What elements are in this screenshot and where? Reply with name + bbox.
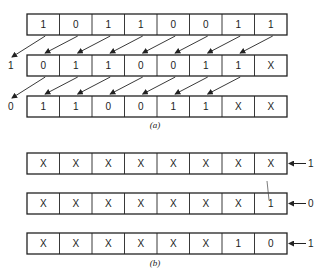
bit-cell: 1: [73, 60, 79, 71]
bit-cell: X: [72, 198, 79, 209]
bit-cell: 1: [105, 19, 111, 30]
shift-arrow-icon: [12, 77, 45, 98]
shift-arrow-icon: [110, 77, 143, 94]
bit-cell: 0: [203, 19, 209, 30]
register-a-3: 110011XX: [27, 96, 287, 117]
bit-cell: 1: [268, 19, 274, 30]
bit-cell: X: [40, 238, 47, 249]
register-b-2: XXXXXXX1: [27, 193, 287, 214]
bit-cell: X: [105, 158, 112, 169]
shift-arrow-icon: [143, 77, 176, 94]
bit-cell: 0: [170, 60, 176, 71]
shift-arrow-icon: [45, 77, 78, 94]
shift-arrow-icon: [78, 77, 111, 94]
serial-input-bit: 1: [308, 238, 314, 249]
bit-cell: 1: [170, 101, 176, 112]
bit-cell: X: [72, 158, 79, 169]
bit-cell: X: [170, 198, 177, 209]
shift-arrow-icon: [240, 36, 273, 53]
bit-cell: 0: [40, 60, 46, 71]
bit-cell: X: [235, 101, 242, 112]
part-a-left-shift: 101100110110011X1110011XX0(a): [8, 14, 287, 130]
bit-cell: 1: [235, 238, 241, 249]
bit-cell: X: [267, 158, 274, 169]
serial-input-bit: 1: [308, 158, 314, 169]
shift-arrow-icon: [12, 36, 45, 57]
bit-cell: 1: [203, 101, 209, 112]
bit-cell: X: [105, 198, 112, 209]
bit-cell: X: [267, 60, 274, 71]
bit-cell: 0: [268, 238, 274, 249]
bit-cell: 1: [105, 60, 111, 71]
bit-cell: 1: [73, 101, 79, 112]
bit-cell: X: [40, 158, 47, 169]
shift-arrow-icon: [208, 77, 241, 94]
bit-cell: X: [235, 158, 242, 169]
bit-cell: 1: [40, 101, 46, 112]
register-a-1: 10110011: [27, 14, 287, 35]
register-b-3: XXXXXX10: [27, 233, 287, 254]
bit-cell: X: [202, 198, 209, 209]
bit-cell: 0: [170, 19, 176, 30]
bit-cell: X: [235, 198, 242, 209]
bit-cell: X: [202, 238, 209, 249]
bit-cell: 0: [138, 60, 144, 71]
bit-cell: X: [105, 238, 112, 249]
register-b-1: XXXXXXXX: [27, 153, 287, 174]
bit-cell: 0: [138, 101, 144, 112]
bit-cell: X: [267, 101, 274, 112]
bit-cell: 1: [235, 60, 241, 71]
shift-arrow-icon: [175, 77, 208, 94]
shift-arrow-icon: [45, 36, 78, 53]
shift-arrow-icon: [175, 36, 208, 53]
part-b-serial-input: XXXXXXXX1XXXXXXX10XXXXXX101(b): [27, 153, 314, 268]
bit-cell: 0: [105, 101, 111, 112]
bit-cell: 1: [235, 19, 241, 30]
shift-arrow-icon: [78, 36, 111, 53]
bit-cell: X: [40, 198, 47, 209]
caption-a: (a): [150, 120, 161, 130]
shift-arrow-icon: [208, 36, 241, 53]
shift-arrow-icon: [143, 36, 176, 53]
bit-cell: X: [137, 198, 144, 209]
shift-register-diagram: 101100110110011X1110011XX0(a) XXXXXXXX1X…: [0, 0, 320, 274]
bit-cell: 1: [203, 60, 209, 71]
shifted-out-bit: 1: [8, 60, 14, 71]
bit-cell: 0: [73, 19, 79, 30]
serial-input-bit: 0: [308, 198, 314, 209]
bit-cell: 1: [40, 19, 46, 30]
shift-arrow-icon: [110, 36, 143, 53]
bit-cell: X: [72, 238, 79, 249]
bit-cell: X: [170, 158, 177, 169]
bit-cell: X: [170, 238, 177, 249]
bit-cell: 1: [138, 19, 144, 30]
register-a-2: 0110011X: [27, 55, 287, 76]
bit-cell: X: [202, 158, 209, 169]
shifted-out-bit: 0: [8, 101, 14, 112]
bit-cell: X: [137, 238, 144, 249]
bit-cell: X: [137, 158, 144, 169]
caption-b: (b): [150, 258, 161, 268]
